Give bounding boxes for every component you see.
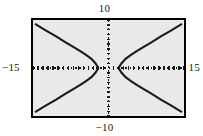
curve-right-branch-upper-: [119, 24, 182, 68]
plot-canvas: [33, 20, 184, 116]
graphing-calculator-screen: 10 −15 15 −10: [0, 0, 203, 136]
y-max-label: 10: [0, 3, 203, 14]
y-min-label: −10: [0, 122, 203, 133]
curve-left-branch-lower-: [35, 68, 98, 112]
x-min-label: −15: [2, 62, 20, 73]
x-max-label: 15: [189, 62, 200, 73]
curve-right-branch-lower-: [119, 68, 182, 112]
plot-frame[interactable]: [31, 18, 186, 118]
curve-left-branch-upper-: [35, 24, 98, 68]
axes-group: [33, 20, 184, 116]
